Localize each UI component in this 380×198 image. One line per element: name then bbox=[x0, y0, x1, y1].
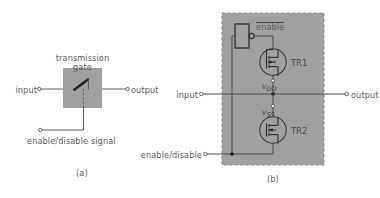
enable-label-text: enable bbox=[256, 22, 284, 32]
transmission-gate-block bbox=[63, 68, 102, 108]
output-terminal-a bbox=[126, 87, 129, 90]
vdd-label: VDD bbox=[262, 74, 277, 93]
input-terminal-a bbox=[38, 87, 41, 90]
input-label-b: input bbox=[163, 90, 198, 100]
input-terminal-b bbox=[200, 92, 203, 95]
vdd-symbol: V bbox=[262, 83, 267, 91]
vss-subscript: SS bbox=[267, 111, 275, 119]
control-terminal-a bbox=[39, 128, 42, 131]
vss-label: VSS bbox=[262, 100, 275, 119]
vss-symbol: V bbox=[262, 109, 267, 117]
output-label-b: output bbox=[351, 90, 379, 100]
caption-a: (a) bbox=[76, 168, 88, 178]
caption-b: (b) bbox=[267, 174, 279, 184]
control-terminal-b bbox=[204, 152, 207, 155]
tr2-label: TR2 bbox=[291, 126, 307, 136]
control-bus-junction-dot bbox=[230, 152, 234, 156]
figure-transmission-gate: transmission gate input output enable/di… bbox=[0, 0, 380, 198]
vdd-subscript: DD bbox=[267, 85, 277, 93]
enable-label-b: enable bbox=[256, 22, 284, 32]
control-label-a: enable/disable signal bbox=[27, 136, 116, 146]
output-label-a: output bbox=[131, 85, 159, 95]
output-terminal-b bbox=[345, 92, 348, 95]
transmission-gate-label-line2: gate bbox=[46, 62, 119, 72]
tr1-label: TR1 bbox=[291, 58, 307, 68]
control-label-b: enable/disable bbox=[140, 150, 202, 160]
input-label-a: input bbox=[0, 85, 37, 95]
